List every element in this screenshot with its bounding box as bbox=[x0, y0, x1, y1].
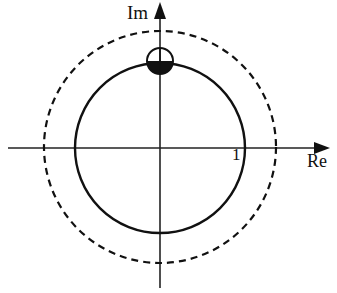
real-axis bbox=[8, 142, 330, 154]
imag-axis bbox=[154, 2, 166, 288]
real-axis-label: Re bbox=[307, 151, 327, 172]
complex-plane-diagram: Im Re 1 bbox=[0, 0, 337, 293]
unit-tick-label: 1 bbox=[232, 145, 241, 165]
imag-axis-label: Im bbox=[127, 2, 148, 24]
small-half-filled-circle bbox=[147, 48, 173, 74]
diagram-canvas bbox=[0, 0, 337, 293]
imag-axis-arrow-icon bbox=[154, 2, 166, 19]
